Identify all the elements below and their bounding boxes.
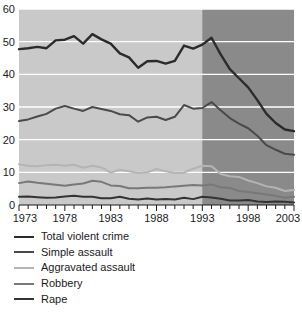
y-axis-tick-labels: 0102030405060 <box>3 3 15 211</box>
legend-swatch-line-icon <box>14 298 34 300</box>
legend-swatch-line-icon <box>14 251 34 253</box>
y-axis-label-20: 20 <box>3 134 15 146</box>
axis-group <box>19 205 294 211</box>
y-axis-label-60: 60 <box>3 3 15 15</box>
x-axis-label-1983: 1983 <box>98 212 122 224</box>
x-axis-tick-labels: 1973197819831988199319982003 <box>13 212 300 224</box>
y-axis-label-0: 0 <box>9 199 15 211</box>
legend-item-label: Total violent crime <box>41 231 129 242</box>
legend-item-label: Robbery <box>41 278 83 289</box>
legend-swatch-line-icon <box>14 236 34 238</box>
x-axis-label-1988: 1988 <box>144 212 168 224</box>
legend-item-0[interactable]: Total violent crime <box>14 229 294 245</box>
legend-item-label: Simple assault <box>41 247 113 258</box>
legend-item-4[interactable]: Rape <box>14 291 294 307</box>
chart-legend: Total violent crimeSimple assaultAggrava… <box>14 229 294 307</box>
legend-item-1[interactable]: Simple assault <box>14 245 294 261</box>
violent-crime-rate-chart: 0102030405060 19731978198319881993199820… <box>0 0 302 312</box>
x-axis-label-1973: 1973 <box>13 212 37 224</box>
x-axis-label-2003: 2003 <box>276 212 300 224</box>
y-axis-label-30: 30 <box>3 101 15 113</box>
y-axis-label-50: 50 <box>3 36 15 48</box>
plot-area: 0102030405060 19731978198319881993199820… <box>0 0 302 226</box>
legend-item-2[interactable]: Aggravated assault <box>14 260 294 276</box>
y-axis-label-10: 10 <box>3 166 15 178</box>
legend-swatch-line-icon <box>14 267 34 269</box>
x-axis-label-1978: 1978 <box>53 212 77 224</box>
y-axis-label-40: 40 <box>3 68 15 80</box>
legend-item-3[interactable]: Robbery <box>14 276 294 292</box>
legend-item-label: Rape <box>41 294 67 305</box>
x-axis-label-1998: 1998 <box>236 212 260 224</box>
x-axis-label-1993: 1993 <box>190 212 214 224</box>
chart-svg: 0102030405060 19731978198319881993199820… <box>0 0 302 226</box>
legend-swatch-line-icon <box>14 283 34 285</box>
legend-item-label: Aggravated assault <box>41 262 135 273</box>
